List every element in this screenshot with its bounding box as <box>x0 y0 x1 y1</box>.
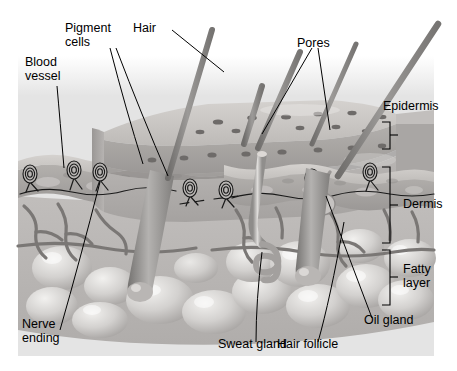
label-pigment-cells: Pigment cells <box>65 22 111 49</box>
label-pores: Pores <box>297 37 330 51</box>
figure-canvas: Blood vessel Pigment cells Hair Pores Ep… <box>0 0 457 371</box>
label-oil-gland: Oil gland <box>364 314 413 328</box>
label-nerve-ending: Nerve ending <box>22 318 60 345</box>
label-sweat-gland: Sweat gland <box>218 338 287 352</box>
label-epidermis: Epidermis <box>383 100 439 114</box>
label-dermis: Dermis <box>403 198 443 212</box>
label-hair: Hair <box>133 22 156 36</box>
label-fatty-layer: Fatty layer <box>403 263 431 290</box>
label-blood-vessel: Blood vessel <box>25 56 60 83</box>
